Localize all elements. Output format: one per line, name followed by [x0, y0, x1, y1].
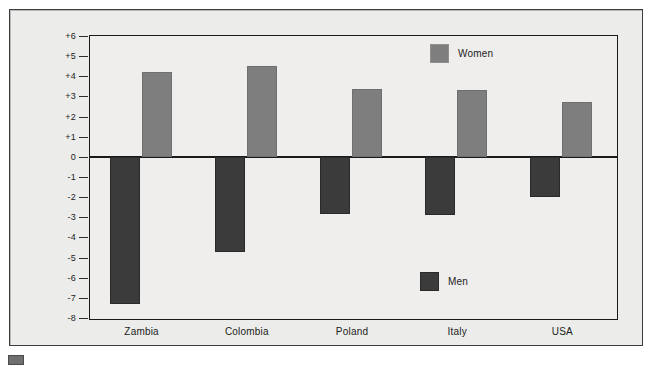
y-tick-label: -7	[68, 293, 76, 303]
bars-area	[90, 36, 617, 319]
y-tick-mark	[79, 237, 88, 238]
x-axis-label: Poland	[336, 326, 368, 337]
y-tick-label: -5	[68, 253, 76, 263]
y-tick-mark	[79, 96, 88, 97]
y-tick-label: -6	[68, 273, 76, 283]
y-tick-mark	[79, 298, 88, 299]
y-tick-label: -8	[68, 313, 76, 323]
y-tick-label: +4	[65, 71, 76, 81]
x-axis-label: USA	[552, 326, 573, 337]
y-tick-mark	[79, 177, 88, 178]
y-tick-mark	[79, 36, 88, 37]
legend-item-men: Men	[420, 272, 468, 291]
y-tick-label: +6	[65, 31, 76, 41]
legend-item-women: Women	[430, 44, 493, 63]
bar-women	[562, 102, 592, 156]
bar-women	[247, 66, 277, 157]
plot-frame: +6+5+4+3+2+10-1-2-3-4-5-6-7-8	[89, 35, 618, 320]
y-tick-mark	[79, 278, 88, 279]
x-axis-label: Colombia	[225, 326, 269, 337]
bar-men	[530, 157, 560, 197]
y-tick-mark	[79, 76, 88, 77]
figure-container: Preferred Age Difference (Years) +6+5+4+…	[0, 0, 652, 369]
y-tick-mark	[79, 318, 88, 319]
bar-women	[457, 90, 487, 156]
y-tick-label: 0	[71, 152, 76, 162]
legend-swatch-men-icon	[420, 272, 439, 291]
y-tick-mark	[79, 217, 88, 218]
y-tick-mark	[79, 117, 88, 118]
y-tick-label: -1	[68, 172, 76, 182]
y-tick-label: -3	[68, 212, 76, 222]
bar-women	[142, 72, 172, 157]
bar-women	[352, 89, 382, 156]
legend-swatch-women-icon	[430, 44, 449, 63]
bar-men	[425, 157, 455, 215]
y-tick-label: -2	[68, 192, 76, 202]
y-tick-mark	[79, 157, 88, 158]
y-tick-label: -4	[68, 232, 76, 242]
y-tick-label: +5	[65, 51, 76, 61]
y-tick-mark	[79, 258, 88, 259]
y-tick-label: +2	[65, 112, 76, 122]
bar-men	[320, 157, 350, 214]
y-tick-mark	[79, 197, 88, 198]
x-axis-label: Italy	[448, 326, 467, 337]
y-tick-label: +1	[65, 132, 76, 142]
x-axis-label: Zambia	[124, 326, 159, 337]
scan-corner-mark	[8, 355, 24, 365]
legend-label-women: Women	[458, 48, 493, 59]
x-axis-labels: ZambiaColombiaPolandItalyUSA	[89, 322, 618, 348]
y-tick-mark	[79, 137, 88, 138]
y-tick-mark	[79, 56, 88, 57]
legend-label-men: Men	[448, 276, 468, 287]
bar-men	[215, 157, 245, 252]
bar-men	[110, 157, 140, 304]
y-tick-label: +3	[65, 91, 76, 101]
